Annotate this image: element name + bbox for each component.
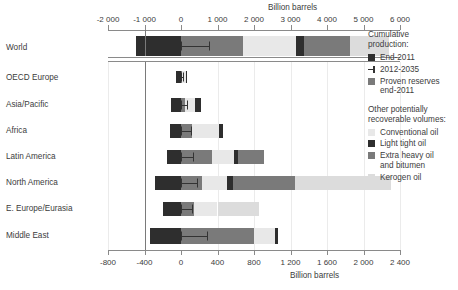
legend-item-projection[interactable]: 2012-2035 [368,65,458,74]
legend-item-proven[interactable]: Proven reserves end-2011 [368,77,458,96]
oil-resources-chart: Billion barrels -2 000-1 00001 0002 0003… [0,0,458,290]
top-axis-tick-label: 5 000 [353,15,373,24]
zero-line-regions [145,62,146,250]
legend-item-lighttight[interactable]: Light tight oil [368,139,458,148]
legend-errorbar-icon [368,66,375,73]
top-axis-tick [364,25,365,30]
bottom-axis-tick [181,250,182,255]
legend-label-lighttight: Light tight oil [380,139,426,148]
legend-heading-other-line1: Other potentially [368,105,458,115]
legend-swatch-end2011-icon [368,54,375,61]
legend-label-extraheavy-line2: and bitumen [380,161,425,170]
top-axis-tick [181,25,182,30]
legend-heading-cumulative-line1: Cumulative [368,30,458,40]
bottom-axis-tick [218,250,219,255]
bottom-axis-tick-label: 1 600 [317,258,337,267]
world-row-separator-lower [108,61,400,62]
bottom-axis-tick-label: -800 [100,258,116,267]
bottom-axis-tick [327,250,328,255]
top-axis-tick-label: 4 000 [317,15,337,24]
legend-label-conventional: Conventional oil [380,128,438,137]
legend-item-conventional[interactable]: Conventional oil [368,128,458,137]
top-axis-title: Billion barrels [268,3,317,12]
top-axis-tick-label: 3 000 [280,15,300,24]
bottom-axis-tick [291,250,292,255]
bottom-axis-tick-label: 2 400 [390,258,410,267]
bottom-axis-tick [400,250,401,255]
bar-row [0,202,458,216]
legend-spacer [368,98,458,105]
bottom-axis-tick [364,250,365,255]
top-axis-tick-label: 0 [179,15,183,24]
legend: Cumulative production: End-2011 2012-203… [368,30,458,185]
top-axis-tick-label: 2 000 [244,15,264,24]
legend-item-kerogen[interactable]: Kerogen oil [368,173,458,182]
legend-item-end2011[interactable]: End-2011 [368,53,458,62]
legend-heading-cumulative: Cumulative production: [368,30,458,50]
bottom-axis-tick-label: 400 [211,258,224,267]
zero-line-world [145,30,146,56]
legend-label-extraheavy-line1: Extra heavy oil [380,151,434,160]
error-bar-projection-2012-2035 [0,202,458,216]
bottom-axis-tick-label: 2 000 [353,258,373,267]
legend-label-projection: 2012-2035 [380,65,419,74]
bottom-axis-tick [108,250,109,255]
bottom-axis-tick-label: -400 [136,258,152,267]
error-bar-projection-2012-2035 [0,228,458,244]
legend-heading-other: Other potentially recoverable volumes: [368,105,458,125]
legend-label-kerogen: Kerogen oil [380,173,421,182]
legend-label-proven-line2: end-2011 [380,86,414,95]
legend-heading-other-line2: recoverable volumes: [368,115,458,125]
top-axis-tick [254,25,255,30]
world-row-separator-upper [108,57,400,58]
legend-swatch-kerogen-icon [368,174,375,181]
top-axis-tick-label: 6 000 [390,15,410,24]
legend-swatch-conventional-icon [368,129,375,136]
top-axis-line [108,30,400,31]
bottom-axis-tick-label: 1 200 [280,258,300,267]
bottom-axis-tick [254,250,255,255]
bar-row [0,228,458,244]
top-axis-tick [218,25,219,30]
top-axis-tick [108,25,109,30]
legend-heading-cumulative-line2: production: [368,40,458,50]
legend-swatch-proven-icon [368,78,375,85]
legend-item-extraheavy[interactable]: Extra heavy oil and bitumen [368,151,458,170]
top-axis-tick-label: -2 000 [97,15,120,24]
top-axis-tick-label: -1 000 [133,15,156,24]
bottom-axis-title: Billion barrels [290,271,339,280]
legend-swatch-lighttight-icon [368,140,375,147]
legend-label-end2011: End-2011 [380,53,415,62]
legend-label-extraheavy: Extra heavy oil and bitumen [380,151,434,170]
bottom-axis-tick-label: 0 [179,258,183,267]
bottom-axis-tick [145,250,146,255]
top-axis-tick-label: 1 000 [207,15,227,24]
legend-swatch-extraheavy-icon [368,152,375,159]
top-axis-tick [291,25,292,30]
legend-label-proven: Proven reserves end-2011 [380,77,440,96]
bottom-axis-tick-label: 800 [247,258,260,267]
legend-label-proven-line1: Proven reserves [380,77,440,86]
top-axis-tick [327,25,328,30]
